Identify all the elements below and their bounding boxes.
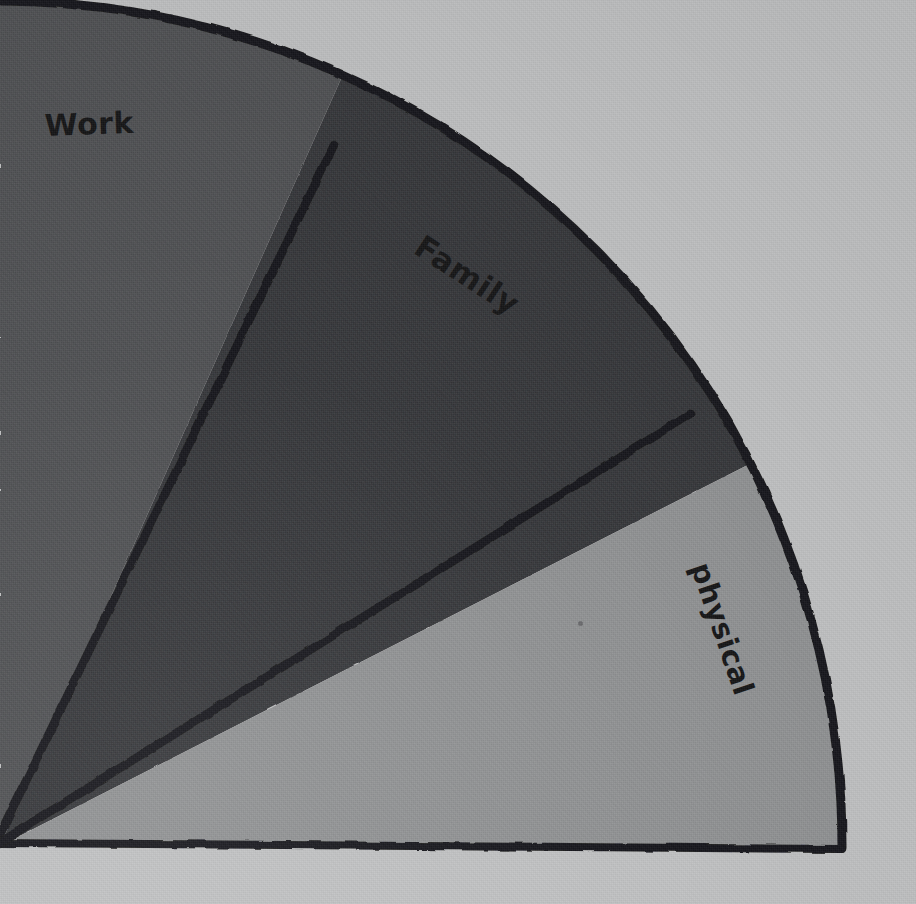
stray-pencil-dot xyxy=(578,621,583,626)
slice-label-work: Work xyxy=(44,105,135,143)
figure-canvas: Work Family physical xyxy=(0,0,916,904)
quarter-pie-chart xyxy=(0,0,916,904)
